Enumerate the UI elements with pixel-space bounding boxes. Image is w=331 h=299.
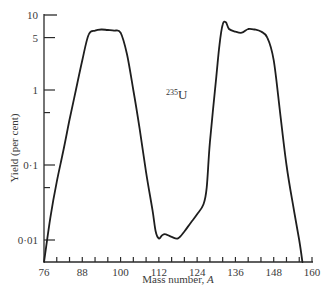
x-axis-title: Mass number, A: [142, 273, 214, 285]
yield-curve: [44, 22, 302, 262]
isotope-annotation: 235U: [166, 87, 188, 102]
y-tick-labels: 10510·10·01: [18, 9, 39, 246]
x-ticks: [57, 257, 312, 262]
x-tick-label: 76: [39, 266, 51, 278]
x-tick-label: 160: [304, 266, 321, 278]
x-tick-label: 100: [112, 266, 129, 278]
y-tick-label: 5: [33, 32, 39, 44]
y-axis-title: Yield (per cent): [8, 113, 21, 182]
fission-yield-chart: 10510·10·01 7688100112124136148160 235U …: [0, 0, 331, 299]
y-tick-label: 0·01: [18, 234, 38, 246]
y-tick-label: 0·1: [23, 159, 38, 171]
y-tick-label: 10: [27, 9, 39, 21]
x-tick-label: 136: [227, 266, 244, 278]
x-tick-label: 88: [77, 266, 89, 278]
x-tick-label: 148: [265, 266, 282, 278]
y-tick-label: 1: [33, 84, 39, 96]
y-ticks: [44, 38, 55, 240]
